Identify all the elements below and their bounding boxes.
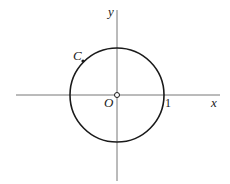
tick-label-1: 1 [165, 96, 171, 110]
y-axis-label: y [106, 4, 114, 19]
origin-point [115, 93, 120, 98]
curve-label-c: C [73, 48, 82, 63]
x-axis-label: x [210, 95, 217, 110]
origin-label: O [104, 95, 114, 110]
point-on-c [81, 59, 84, 62]
unit-circle-diagram: y x O 1 C [0, 0, 230, 184]
